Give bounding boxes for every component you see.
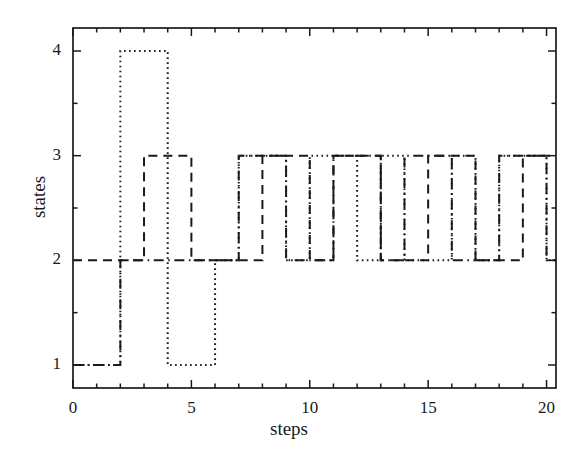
- x-axis-label: steps: [0, 418, 578, 440]
- y-tick-label: 3: [21, 145, 61, 165]
- x-tick-label: 10: [280, 398, 340, 418]
- chart-background: [0, 0, 578, 451]
- y-axis-label: states: [28, 152, 50, 242]
- x-tick-label: 15: [398, 398, 458, 418]
- y-tick-label: 4: [21, 40, 61, 60]
- chart-figure: [0, 0, 578, 451]
- y-tick-label: 1: [21, 354, 61, 374]
- x-tick-label: 5: [161, 398, 221, 418]
- x-tick-label: 20: [517, 398, 577, 418]
- x-tick-label: 0: [43, 398, 103, 418]
- y-tick-label: 2: [21, 249, 61, 269]
